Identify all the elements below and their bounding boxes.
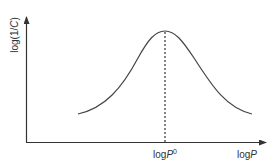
y-axis-label: log(1/C) (10, 17, 20, 53)
peak-x-label: logP0 (153, 150, 177, 160)
x-axis-label: logP (237, 150, 257, 160)
diagram-canvas (0, 0, 276, 167)
